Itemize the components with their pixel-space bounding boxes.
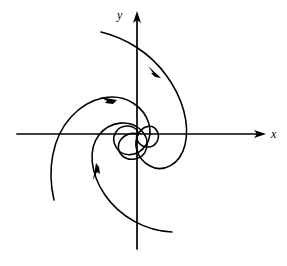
phase-portrait-canvas [0,0,287,266]
phase-portrait-figure: y x [0,0,287,266]
trajectory-lower [92,123,172,232]
y-axis-label: y [117,9,122,21]
flow-arrow-left-icon [100,97,117,104]
flow-arrow-upper-icon [148,66,161,78]
trajectory-left [51,97,150,200]
x-axis-label: x [271,128,276,140]
